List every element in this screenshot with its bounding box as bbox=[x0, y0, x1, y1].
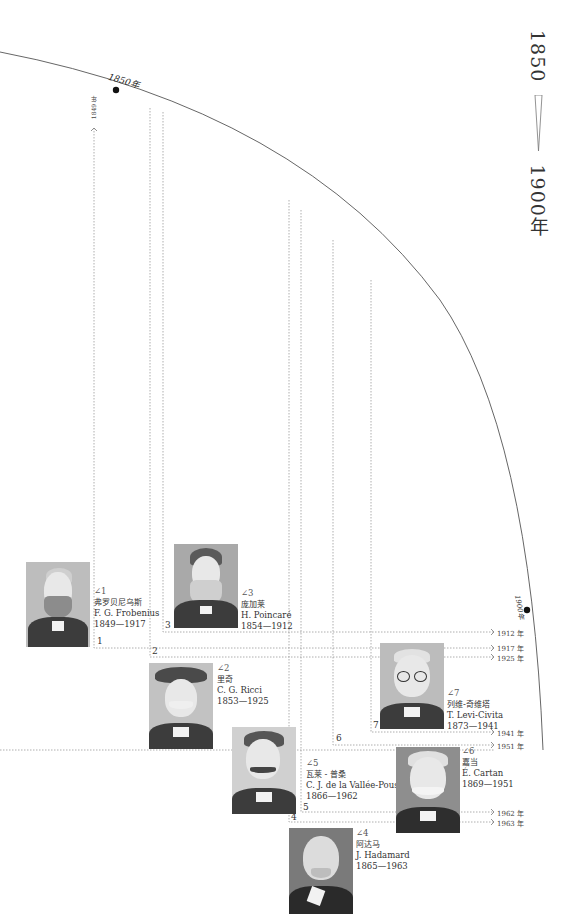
period-start: 1850 bbox=[527, 30, 549, 82]
portrait-frobenius bbox=[26, 562, 90, 647]
line-number-2: 2 bbox=[152, 646, 158, 656]
line-number-1: 1 bbox=[97, 636, 103, 646]
caption-frobenius: ∠1 弗罗贝尼乌斯 F. G. Frobenius 1849—1917 bbox=[94, 586, 159, 630]
portrait-cartan bbox=[396, 747, 460, 833]
period-title: 1850 1900年 bbox=[525, 30, 552, 237]
caption-hadamard: ∠4 阿达马 J. Hadamard 1865—1963 bbox=[356, 828, 410, 872]
portrait-poincare bbox=[174, 544, 238, 628]
wedge-icon bbox=[540, 95, 549, 151]
line-number-5: 5 bbox=[303, 802, 309, 812]
portrait-hadamard bbox=[289, 828, 353, 914]
end-year-1925: 1925 年 bbox=[497, 653, 524, 663]
line-number-6: 6 bbox=[336, 733, 342, 743]
portrait-levi-civita bbox=[380, 643, 444, 729]
end-year-1962: 1962 年 bbox=[497, 808, 524, 818]
caption-cartan: ∠6 嘉当 É. Cartan 1869—1951 bbox=[462, 746, 514, 790]
portrait-vallee-poussin bbox=[232, 727, 296, 814]
line-number-3: 3 bbox=[165, 620, 171, 630]
caption-ricci: ∠2 里奇 C. G. Ricci 1853—1925 bbox=[217, 663, 269, 707]
end-year-1963: 1963 年 bbox=[497, 818, 524, 828]
end-year-1917: 1917 年 bbox=[497, 643, 524, 653]
portrait-ricci bbox=[149, 663, 213, 749]
start-year-label: 1849 年 bbox=[89, 96, 98, 119]
caption-poincare: ∠3 庞加莱 H. Poincaré 1854—1912 bbox=[241, 588, 293, 632]
marker-1850 bbox=[113, 87, 119, 93]
line-number-7: 7 bbox=[373, 720, 379, 730]
caption-levi-civita: ∠7 列维-奇维塔 T. Levi-Civita 1873—1941 bbox=[447, 688, 503, 732]
period-end: 1900年 bbox=[527, 164, 549, 236]
end-year-1912: 1912 年 bbox=[497, 628, 524, 638]
